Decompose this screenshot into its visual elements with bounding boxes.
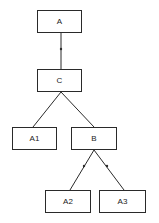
node-label: A <box>57 17 62 26</box>
node-label: A3 <box>118 197 128 206</box>
edge-C-B <box>61 92 94 127</box>
node-b: B <box>71 127 117 150</box>
edge-B-A2 <box>70 150 94 190</box>
node-label: A1 <box>30 134 40 143</box>
node-a2: A2 <box>45 190 91 213</box>
node-a1: A1 <box>12 127 57 150</box>
node-a3: A3 <box>99 190 146 213</box>
edge-marker-dot <box>60 48 62 50</box>
node-label: B <box>91 134 96 143</box>
node-label: C <box>57 76 63 85</box>
edge-B-A3 <box>94 150 124 190</box>
node-label: A2 <box>63 197 73 206</box>
node-a: A <box>37 10 82 33</box>
edge-C-A1 <box>33 92 61 127</box>
edge-marker-dot <box>83 165 85 167</box>
edge-marker-dot <box>106 165 108 167</box>
node-c: C <box>37 69 82 92</box>
